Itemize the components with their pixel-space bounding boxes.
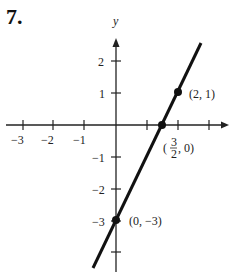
- y-axis-arrow-icon: [113, 38, 120, 47]
- x-tick-label: −2: [41, 133, 54, 147]
- svg-text:2: 2: [171, 147, 177, 161]
- y-tick-label: 2: [98, 55, 104, 69]
- label-point-0-m3: (0, −3): [129, 214, 162, 228]
- y-tick-label: −3: [92, 215, 105, 229]
- y-tick-label: 1: [99, 87, 105, 101]
- point-2-1: [174, 88, 182, 96]
- line-y-2x-3: [93, 43, 201, 268]
- graph: 7. y −3 −2 −1 2 1 −1 −2 −3 (2, 1) (0, −3…: [0, 0, 229, 275]
- label-point-2-1: (2, 1): [189, 87, 215, 101]
- x-tick-label: −1: [73, 133, 86, 147]
- point-3-2-0: [158, 121, 166, 129]
- svg-text:, 0): , 0): [178, 141, 194, 155]
- y-tick-label: −1: [92, 151, 105, 165]
- svg-text:(: (: [163, 141, 167, 155]
- label-point-3-2-0: ( 3 2 , 0): [163, 135, 194, 161]
- point-0-m3: [112, 216, 120, 224]
- y-tick-label: −2: [92, 183, 105, 197]
- problem-number: 7.: [6, 4, 23, 29]
- x-tick-label: −3: [11, 133, 24, 147]
- x-axis-arrow-icon: [221, 122, 229, 129]
- y-axis-label: y: [112, 14, 119, 28]
